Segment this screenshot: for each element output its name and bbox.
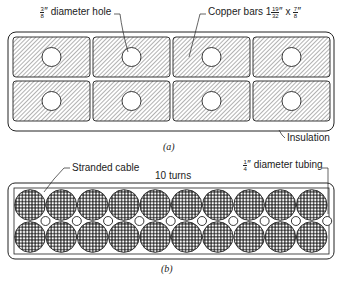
bar-hole xyxy=(282,48,301,67)
stranded-cable xyxy=(15,222,46,253)
stranded-cable xyxy=(265,222,296,253)
stranded-cable xyxy=(234,190,265,221)
cooling-tube xyxy=(166,217,175,226)
cooling-tube xyxy=(41,217,50,226)
tubing-label: 14″ diameter tubing xyxy=(243,159,323,172)
stranded-cable xyxy=(77,222,108,253)
insulation-label: Insulation xyxy=(287,132,330,143)
bar-hole xyxy=(42,48,61,67)
stranded-cable xyxy=(140,222,171,253)
stranded-cable xyxy=(109,190,140,221)
bar-hole xyxy=(122,92,141,111)
stranded-cable xyxy=(171,222,202,253)
stranded-cable xyxy=(109,222,140,253)
cooling-tube xyxy=(198,217,207,226)
bar-hole xyxy=(202,48,221,67)
cooling-tube xyxy=(104,217,113,226)
stranded-cable xyxy=(296,190,327,221)
bar-hole xyxy=(42,92,61,111)
stranded-cable xyxy=(77,190,108,221)
stranded-cable xyxy=(203,190,234,221)
cooling-tube xyxy=(135,217,144,226)
figure-a xyxy=(8,14,334,138)
stranded-cable xyxy=(171,190,202,221)
stranded-cable xyxy=(15,190,46,221)
bar-hole xyxy=(282,92,301,111)
cooling-tube xyxy=(323,217,332,226)
stranded-cable xyxy=(140,190,171,221)
caption-b: (b) xyxy=(161,263,173,274)
cooling-tube xyxy=(291,217,300,226)
hole-label: 38″ diameter hole xyxy=(40,6,111,19)
stranded-cable xyxy=(234,222,265,253)
stranded-cable xyxy=(296,222,327,253)
turns-label: 10 turns xyxy=(155,170,191,181)
copper-bars-label: Copper bars 11932″ x 78″ xyxy=(208,6,301,19)
caption-a: (a) xyxy=(163,141,175,152)
figure-b xyxy=(8,168,334,259)
stranded-cable xyxy=(46,222,77,253)
bar-hole xyxy=(122,48,141,67)
stranded-cable xyxy=(265,190,296,221)
stranded-cable xyxy=(46,190,77,221)
cooling-tube xyxy=(260,217,269,226)
bar-hole xyxy=(202,92,221,111)
cooling-tube xyxy=(72,217,81,226)
stranded-cable xyxy=(203,222,234,253)
stranded-cable-label: Stranded cable xyxy=(72,162,139,173)
cooling-tube xyxy=(229,217,238,226)
